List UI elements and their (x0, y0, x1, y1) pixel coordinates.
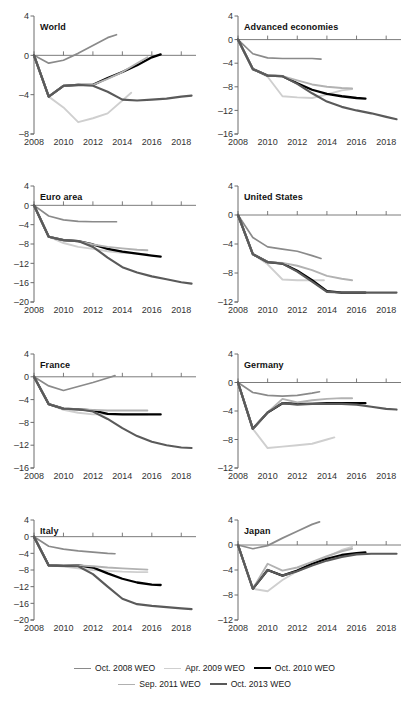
y-tick-label: –16 (14, 278, 29, 288)
x-tick-label: 2010 (53, 471, 73, 481)
x-tick-label: 2008 (228, 471, 248, 481)
panel-title: Germany (244, 360, 284, 370)
x-tick-label: 2016 (142, 305, 162, 315)
figure-root: 40–4–8200820102012201420162018World40–4–… (0, 0, 409, 711)
y-tick-label: –4 (223, 406, 233, 416)
legend-oct-2008-weo[interactable]: Oct. 2008 WEO (74, 663, 155, 673)
x-tick-label: 2014 (317, 471, 337, 481)
series-line-sep-2011-weo (34, 205, 147, 250)
y-tick-label: –8 (19, 565, 29, 575)
y-tick-label: –8 (223, 590, 233, 600)
y-tick-label: –8 (19, 418, 29, 428)
x-tick-label: 2018 (171, 137, 191, 147)
series-line-oct-2008-weo (34, 205, 116, 221)
panel-plot: 40–4–8–12–16–20200820102012201420162018 (0, 504, 204, 656)
legend-apr-2009-weo[interactable]: Apr. 2009 WEO (164, 663, 245, 673)
y-tick-label: –4 (223, 565, 233, 575)
legend-oct-2013-weo[interactable]: Oct. 2013 WEO (210, 679, 291, 689)
y-tick-label: 0 (228, 540, 233, 550)
series-line-apr-2009-weo (34, 55, 131, 122)
x-tick-label: 2012 (287, 305, 307, 315)
series-line-oct-2008-weo (238, 40, 321, 59)
y-tick-label: 4 (24, 515, 29, 525)
x-tick-label: 2014 (112, 623, 132, 633)
legend-swatch-icon (74, 668, 91, 669)
x-tick-label: 2018 (376, 137, 396, 147)
y-tick-label: 0 (24, 201, 29, 211)
legend-row-2: Sep. 2011 WEOOct. 2013 WEO (0, 676, 409, 692)
x-tick-label: 2008 (228, 623, 248, 633)
y-tick-label: –12 (14, 259, 29, 269)
y-tick-label: 4 (228, 515, 233, 525)
y-tick-label: 0 (228, 378, 233, 388)
y-tick-label: –4 (223, 239, 233, 249)
y-tick-label: –8 (19, 239, 29, 249)
x-tick-label: 2008 (24, 623, 44, 633)
legend-swatch-icon (254, 667, 271, 669)
x-tick-label: 2010 (53, 137, 73, 147)
series-line-oct-2008-weo (34, 376, 115, 391)
legend-label: Sep. 2011 WEO (139, 679, 200, 689)
panel-grid: 40–4–8200820102012201420162018World40–4–… (0, 0, 409, 656)
series-line-oct-2010-weo (238, 383, 365, 429)
x-tick-label: 2014 (112, 471, 132, 481)
panel-title: World (40, 22, 66, 32)
x-tick-label: 2012 (287, 137, 307, 147)
x-tick-label: 2016 (347, 623, 367, 633)
legend-label: Oct. 2010 WEO (275, 663, 335, 673)
panel-title: United States (244, 192, 303, 202)
x-tick-label: 2018 (376, 471, 396, 481)
panel-advanced-economies: 40–4–8–12–16200820102012201420162018Adva… (204, 0, 409, 170)
y-tick-label: 0 (24, 372, 29, 382)
y-tick-label: 4 (228, 11, 233, 21)
x-tick-label: 2016 (347, 305, 367, 315)
y-tick-label: –4 (223, 58, 233, 68)
x-tick-label: 2010 (258, 471, 278, 481)
panel-world: 40–4–8200820102012201420162018World (0, 0, 204, 170)
x-tick-label: 2014 (317, 305, 337, 315)
legend-swatch-icon (210, 683, 227, 685)
x-tick-label: 2012 (83, 305, 103, 315)
panel-italy: 40–4–8–12–16–20200820102012201420162018I… (0, 504, 204, 656)
panel-united-states: 40–4–8–12200820102012201420162018United … (204, 170, 409, 338)
panel-title: France (40, 360, 70, 370)
panel-plot: 40–4–8–12–16200820102012201420162018 (0, 338, 204, 504)
y-tick-label: 0 (24, 51, 29, 61)
series-line-oct-2013-weo (238, 383, 397, 429)
x-tick-label: 2008 (24, 305, 44, 315)
x-tick-label: 2008 (24, 137, 44, 147)
y-tick-label: –12 (14, 440, 29, 450)
legend-row-1: Oct. 2008 WEOApr. 2009 WEOOct. 2010 WEO (0, 660, 409, 676)
series-line-oct-2008-weo (34, 35, 116, 64)
series-line-apr-2009-weo (238, 40, 352, 98)
panel-germany: 40–4–8–12200820102012201420162018Germany (204, 338, 409, 504)
y-tick-label: 4 (228, 349, 233, 359)
panel-japan: 40–4–8–12200820102012201420162018Japan (204, 504, 409, 656)
panel-plot: 40–4–8–12200820102012201420162018 (204, 170, 409, 338)
legend-sep-2011-weo[interactable]: Sep. 2011 WEO (118, 679, 200, 689)
x-tick-label: 2008 (228, 305, 248, 315)
x-tick-label: 2016 (142, 623, 162, 633)
panel-title: Advanced economies (244, 22, 338, 32)
panel-plot: 40–4–8–12200820102012201420162018 (204, 338, 409, 504)
y-tick-label: 0 (24, 532, 29, 542)
x-tick-label: 2012 (83, 137, 103, 147)
x-tick-label: 2010 (53, 623, 73, 633)
panel-title: Japan (244, 526, 271, 536)
series-line-sep-2011-weo (238, 383, 352, 429)
series-line-oct-2008-weo (238, 215, 321, 259)
legend-oct-2010-weo[interactable]: Oct. 2010 WEO (254, 663, 335, 673)
y-tick-label: –8 (223, 82, 233, 92)
y-tick-label: –12 (218, 106, 233, 116)
panel-plot: 40–4–8200820102012201420162018 (0, 0, 204, 170)
series-line-oct-2013-weo (238, 545, 397, 589)
y-tick-label: 0 (228, 210, 233, 220)
x-tick-label: 2016 (142, 137, 162, 147)
panel-euro-area: 40–4–8–12–16–20200820102012201420162018E… (0, 170, 204, 338)
series-line-sep-2011-weo (34, 55, 147, 96)
legend-label: Oct. 2008 WEO (95, 663, 155, 673)
x-tick-label: 2016 (347, 471, 367, 481)
x-tick-label: 2014 (317, 623, 337, 633)
legend-label: Apr. 2009 WEO (185, 663, 245, 673)
panel-france: 40–4–8–12–16200820102012201420162018Fran… (0, 338, 204, 504)
